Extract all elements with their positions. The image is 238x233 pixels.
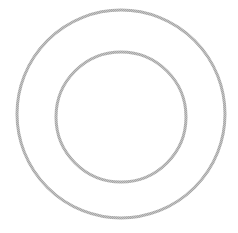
background xyxy=(0,0,238,233)
concentric-circles-diagram xyxy=(0,0,238,233)
